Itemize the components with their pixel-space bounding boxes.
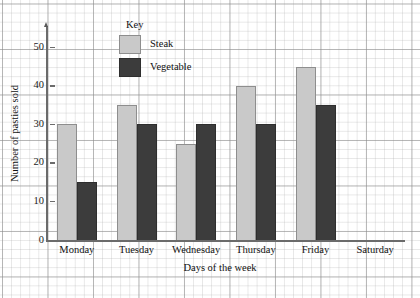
bar-friday-vegetable xyxy=(316,105,336,240)
bar-thursday-steak xyxy=(236,86,256,240)
bar-monday-steak xyxy=(57,124,77,240)
x-label-tuesday: Tuesday xyxy=(107,244,167,256)
legend-swatch-vegetable xyxy=(119,58,141,77)
x-axis-category-labels: MondayTuesdayWednesdayThursdayFridaySatu… xyxy=(47,244,405,260)
bar-monday-vegetable xyxy=(77,182,97,240)
legend-entry-vegetable: Vegetable xyxy=(119,57,227,79)
x-label-thursday: Thursday xyxy=(226,244,286,256)
legend-label-steak: Steak xyxy=(150,39,173,50)
x-label-wednesday: Wednesday xyxy=(166,244,226,256)
y-tick-label: 50 xyxy=(14,42,44,53)
legend-entry-steak: Steak xyxy=(119,34,227,56)
legend-title: Key xyxy=(126,20,227,31)
bar-chart: 01020304050 Number of pasties sold Monda… xyxy=(0,0,420,298)
bar-tuesday-steak xyxy=(117,105,137,240)
y-axis-arrow-icon xyxy=(44,22,48,27)
bar-wednesday-vegetable xyxy=(196,124,216,240)
x-label-friday: Friday xyxy=(286,244,346,256)
legend-swatch-steak xyxy=(119,35,141,54)
x-label-saturday: Saturday xyxy=(345,244,405,256)
bar-tuesday-vegetable xyxy=(137,124,157,240)
bar-friday-steak xyxy=(296,67,316,240)
bar-thursday-vegetable xyxy=(256,124,276,240)
legend: Key SteakVegetable xyxy=(119,20,227,80)
bar-wednesday-steak xyxy=(176,144,196,240)
x-label-monday: Monday xyxy=(47,244,107,256)
legend-label-vegetable: Vegetable xyxy=(150,62,191,73)
x-axis-line xyxy=(46,240,405,242)
y-axis-title: Number of pasties sold xyxy=(9,54,20,214)
x-axis-title: Days of the week xyxy=(150,262,290,273)
y-tick-label: 0 xyxy=(14,235,44,246)
legend-entries: SteakVegetable xyxy=(119,34,227,79)
